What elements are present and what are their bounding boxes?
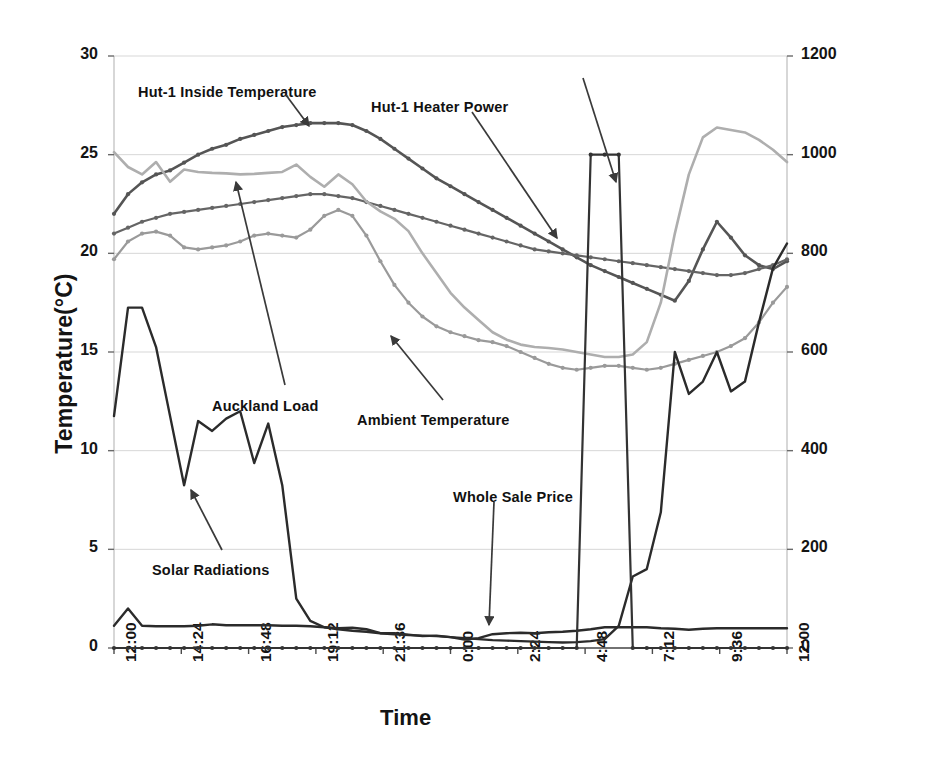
annotation-arrow [472, 112, 557, 238]
annotation-arrow [286, 95, 309, 126]
series-whole-sale-price [114, 609, 787, 640]
series-marker [322, 192, 326, 196]
series-marker [743, 336, 747, 340]
series-marker [210, 646, 214, 650]
series-marker [715, 646, 719, 650]
series-marker [350, 646, 354, 650]
series-marker [490, 235, 494, 239]
series-marker [182, 245, 186, 249]
series-hut-1-inside-temperature [112, 121, 789, 303]
annotation-arrow [236, 182, 285, 385]
series-marker [603, 269, 607, 273]
series-marker [729, 273, 733, 277]
series-marker [533, 247, 537, 251]
series-marker [266, 198, 270, 202]
series-marker [420, 646, 424, 650]
series-marker [280, 646, 284, 650]
series-marker [561, 251, 565, 255]
series-marker [392, 208, 396, 212]
series-marker [561, 247, 565, 251]
series-marker [294, 235, 298, 239]
chart-figure: Temperature(°C) Whole Sale Price ($ /MWh… [0, 0, 936, 763]
series-marker [617, 364, 621, 368]
series-marker [448, 224, 452, 228]
series-line [114, 194, 787, 275]
series-marker [519, 224, 523, 228]
series-marker [210, 206, 214, 210]
series-marker [182, 210, 186, 214]
series-marker [462, 228, 466, 232]
series-marker [224, 243, 228, 247]
series-marker [504, 239, 508, 243]
series-ambient-temperature [112, 208, 789, 372]
annotation-arrow [191, 490, 222, 550]
series-marker [434, 324, 438, 328]
series-marker [196, 153, 200, 157]
plot-canvas [0, 0, 936, 763]
series-marker [168, 646, 172, 650]
series-marker [687, 358, 691, 362]
series-marker [420, 314, 424, 318]
series-marker [462, 334, 466, 338]
series-marker [659, 366, 663, 370]
series-marker [420, 216, 424, 220]
series-marker [224, 143, 228, 147]
series-marker [645, 368, 649, 372]
series-marker [154, 172, 158, 176]
series-marker [406, 157, 410, 161]
series-marker [434, 220, 438, 224]
series-marker [561, 646, 565, 650]
series-marker [504, 344, 508, 348]
series-marker [701, 646, 705, 650]
series-marker [196, 247, 200, 251]
series-marker [266, 232, 270, 236]
series-marker [126, 646, 130, 650]
series-marker [729, 344, 733, 348]
series-marker [112, 257, 116, 261]
series-solar-radiations [114, 243, 787, 642]
series-marker [462, 646, 466, 650]
series-marker [280, 196, 284, 200]
series-marker [589, 366, 593, 370]
series-marker [701, 271, 705, 275]
series-marker [168, 168, 172, 172]
series-marker [631, 281, 635, 285]
series-marker [589, 255, 593, 259]
series-marker [617, 275, 621, 279]
series-marker [308, 192, 312, 196]
series-marker [561, 366, 565, 370]
series-marker [448, 184, 452, 188]
series-marker [673, 299, 677, 303]
series-marker [617, 153, 621, 157]
series-marker [504, 216, 508, 220]
series-marker [392, 283, 396, 287]
series-marker [448, 646, 452, 650]
series-marker [112, 212, 116, 216]
series-marker [280, 233, 284, 237]
series-marker [112, 232, 116, 236]
series-marker [350, 123, 354, 127]
series-marker [434, 646, 438, 650]
annotation-arrow [391, 336, 443, 400]
series-marker [308, 228, 312, 232]
series-marker [743, 253, 747, 257]
series-marker [533, 356, 537, 360]
series-marker [238, 646, 242, 650]
series-marker [294, 646, 298, 650]
series-marker [252, 233, 256, 237]
series-marker [490, 340, 494, 344]
series-marker [224, 646, 228, 650]
series-marker [406, 301, 410, 305]
series-marker [126, 239, 130, 243]
series-marker [336, 208, 340, 212]
series-marker [729, 235, 733, 239]
series-marker [252, 646, 256, 650]
series-marker [575, 253, 579, 257]
series-marker [757, 267, 761, 271]
series-marker [322, 646, 326, 650]
series-marker [476, 200, 480, 204]
series-marker [168, 233, 172, 237]
series-marker [154, 646, 158, 650]
series-marker [378, 137, 382, 141]
series-marker [701, 247, 705, 251]
